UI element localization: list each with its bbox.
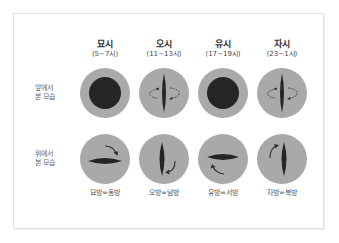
row-label-line: 위에서: [35, 150, 75, 159]
column-header-myosi: 묘시 (5~7시): [77, 39, 133, 59]
column-time: (17~19시): [195, 50, 251, 59]
column-name: 묘시: [77, 39, 133, 50]
eye-top-yubang-icon: [197, 133, 249, 185]
eye-front-myosi-icon: [79, 67, 131, 119]
column-time: (23~1시): [254, 50, 310, 59]
column-header-yusi: 유시 (17~19시): [195, 39, 251, 59]
eye-top-myobang-icon: [79, 133, 131, 185]
direction-label-obang: 오방=남방: [134, 189, 194, 198]
eye-front-osi-icon: [138, 67, 190, 119]
column-name: 유시: [195, 39, 251, 50]
row-label-top-view: 위에서 본 모습: [35, 150, 75, 168]
column-name: 자시: [254, 39, 310, 50]
direction-label-myobang: 묘방=동방: [75, 189, 135, 198]
row-label-line: 본 모습: [35, 93, 75, 102]
row-label-line: 앞에서: [35, 84, 75, 93]
direction-label-jabang: 자방=북방: [252, 189, 312, 198]
diagram-card: 묘시 (5~7시) 오시 (11~13시) 유시 (17~19시) 자시 (23…: [13, 13, 324, 229]
column-name: 오시: [136, 39, 192, 50]
eye-top-obang-icon: [138, 133, 190, 185]
row-label-front-view: 앞에서 본 모습: [35, 84, 75, 102]
column-time: (5~7시): [77, 50, 133, 59]
column-header-jasi: 자시 (23~1시): [254, 39, 310, 59]
eye-front-jasi-icon: [256, 67, 308, 119]
column-header-osi: 오시 (11~13시): [136, 39, 192, 59]
direction-label-yubang: 유방=서방: [193, 189, 253, 198]
eye-top-jabang-icon: [256, 133, 308, 185]
row-label-line: 본 모습: [35, 159, 75, 168]
column-time: (11~13시): [136, 50, 192, 59]
eye-front-yusi-icon: [197, 67, 249, 119]
